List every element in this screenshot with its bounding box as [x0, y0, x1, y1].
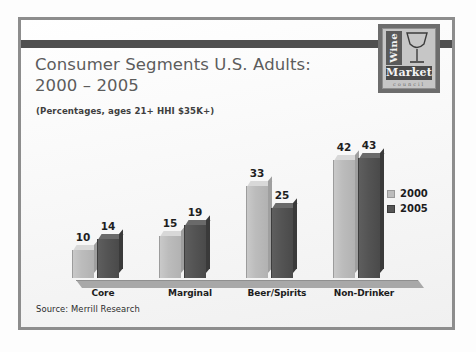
bar-body — [72, 250, 94, 278]
legend-label-2000: 2000 — [400, 188, 428, 199]
legend-label-2005: 2005 — [400, 203, 428, 214]
bar-body — [358, 158, 380, 278]
bar-value-label: 10 — [68, 231, 98, 243]
bar-front-face — [271, 208, 293, 278]
page-title-line2: 2000 – 2005 — [35, 75, 365, 96]
legend-swatch-2000 — [387, 190, 395, 198]
source-note: Source: Merrill Research — [36, 304, 140, 314]
slide-frame: Wine Market council Consumer Segments U.… — [18, 17, 455, 330]
logo-wine-label: Wine — [389, 32, 399, 64]
page-title: Consumer Segments U.S. Adults: 2000 – 20… — [35, 54, 365, 96]
bar-side-face — [206, 215, 210, 273]
page-title-line1: Consumer Segments U.S. Adults: — [35, 55, 311, 74]
chart-group: 3325Beer/Spirits — [238, 138, 316, 278]
bar-value-label: 14 — [93, 220, 123, 232]
bar-side-face — [380, 148, 384, 273]
bar-value-label: 33 — [242, 167, 272, 179]
bar-front-face — [358, 158, 380, 278]
bar-front-face — [97, 239, 119, 278]
bar-value-label: 19 — [180, 206, 210, 218]
chart-floor — [76, 277, 424, 288]
category-label: Core — [64, 288, 142, 298]
bar-side-face — [119, 229, 123, 273]
bar-front-face — [72, 250, 94, 278]
bar-body — [184, 225, 206, 278]
legend-item-2005[interactable]: 2005 — [387, 203, 428, 214]
legend-item-2000[interactable]: 2000 — [387, 188, 428, 199]
bar-front-face — [246, 186, 268, 278]
bar-value-label: 25 — [267, 189, 297, 201]
bar-body — [159, 236, 181, 278]
logo-wine-block: Wine — [386, 31, 402, 65]
bar-value-label: 43 — [354, 139, 384, 151]
logo-inner: Wine Market council — [382, 28, 436, 89]
chart-group: 1014Core — [64, 138, 142, 278]
wine-glass-icon — [401, 30, 433, 66]
chart-group: 1519Marginal — [151, 138, 229, 278]
bar-value-label: 15 — [155, 217, 185, 229]
bar-front-face — [333, 160, 355, 278]
bar-front-face — [184, 225, 206, 278]
category-label: Marginal — [151, 288, 229, 298]
bar-body — [97, 239, 119, 278]
bar-side-face — [293, 198, 297, 273]
legend-swatch-2005 — [387, 205, 395, 213]
bar-chart: 1014Core1519Marginal3325Beer/Spirits4243… — [36, 120, 441, 300]
slide-canvas: Wine Market council Consumer Segments U.… — [21, 20, 452, 327]
bar-front-face — [159, 236, 181, 278]
page-subtitle: (Percentages, ages 21+ HHI $35K+) — [36, 106, 214, 116]
logo-council-label: council — [386, 81, 432, 88]
chart-legend: 2000 2005 — [387, 188, 428, 218]
category-label: Beer/Spirits — [238, 288, 316, 298]
bar-body — [333, 160, 355, 278]
wine-market-council-logo: Wine Market council — [378, 24, 440, 93]
bar-body — [246, 186, 268, 278]
page-background: Wine Market council Consumer Segments U.… — [0, 0, 476, 352]
category-label: Non-Drinker — [325, 288, 403, 298]
logo-market-label: Market — [386, 66, 432, 80]
bar-body — [271, 208, 293, 278]
